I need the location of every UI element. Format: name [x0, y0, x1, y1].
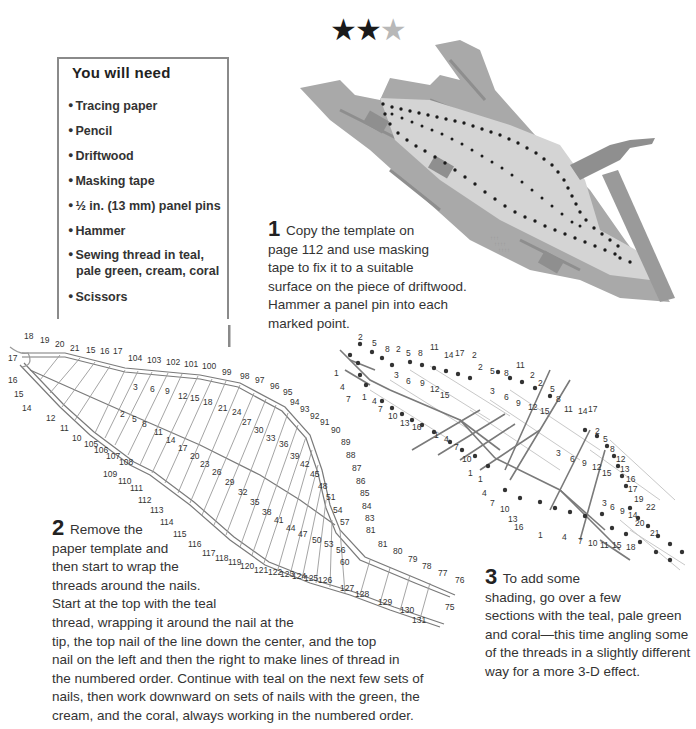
- svg-text:29: 29: [225, 477, 235, 487]
- bullet-icon: ●: [68, 291, 73, 301]
- svg-text:8: 8: [610, 444, 615, 454]
- step-1: 1 Copy the template on page 112 and use …: [268, 218, 478, 334]
- svg-text:39: 39: [290, 451, 300, 461]
- svg-text:17: 17: [178, 443, 188, 453]
- svg-text:1: 1: [478, 474, 483, 484]
- svg-text:14: 14: [22, 403, 32, 413]
- svg-text:17: 17: [455, 348, 465, 358]
- svg-text:1: 1: [334, 368, 339, 378]
- step-text-line: Copy the template on: [286, 223, 414, 238]
- svg-text:5: 5: [132, 414, 137, 424]
- svg-text:2: 2: [538, 378, 543, 388]
- svg-text:48: 48: [318, 481, 328, 491]
- svg-text:16: 16: [100, 346, 110, 356]
- material-label: Driftwood: [75, 149, 133, 163]
- svg-text:15: 15: [86, 345, 96, 355]
- svg-text:8: 8: [504, 368, 509, 378]
- step-text-line: then start to wrap the: [52, 559, 179, 574]
- bullet-icon: ●: [68, 249, 73, 259]
- svg-text:15: 15: [14, 389, 24, 399]
- bullet-icon: ●: [68, 225, 73, 235]
- svg-text:13: 13: [400, 418, 410, 428]
- bullet-icon: ●: [68, 175, 73, 185]
- svg-text:10: 10: [388, 411, 398, 421]
- materials-title: You will need: [72, 64, 171, 81]
- svg-text:35: 35: [250, 497, 260, 507]
- svg-text:7: 7: [378, 404, 383, 414]
- svg-text:14: 14: [578, 406, 588, 416]
- svg-text:2: 2: [595, 426, 600, 436]
- svg-text:111: 111: [130, 483, 143, 493]
- step-text-line: paper template and: [52, 541, 168, 556]
- svg-text:15: 15: [540, 406, 550, 416]
- svg-text:15: 15: [440, 390, 450, 400]
- svg-text:3: 3: [133, 382, 138, 392]
- svg-text:112: 112: [138, 495, 152, 505]
- svg-text:9: 9: [420, 378, 425, 388]
- svg-text:97: 97: [255, 375, 265, 385]
- material-label: Sewing thread in teal,: [75, 248, 204, 262]
- material-item: ●Sewing thread in teal,: [68, 246, 204, 263]
- material-label: Scissors: [75, 290, 127, 304]
- step-number: 1: [268, 216, 280, 241]
- material-item: ●Pencil: [68, 122, 112, 139]
- svg-text:17: 17: [588, 404, 598, 414]
- svg-text:42: 42: [300, 459, 310, 469]
- step-text-line: thread, wrapping it around the nail at t…: [52, 615, 294, 630]
- svg-text:14: 14: [166, 435, 176, 445]
- step-text-line: Remove the: [70, 522, 143, 537]
- svg-text:9: 9: [516, 398, 521, 408]
- svg-text:98: 98: [240, 371, 250, 381]
- svg-text:93: 93: [300, 404, 310, 414]
- step-text-line: surface on the piece of driftwood.: [268, 279, 467, 294]
- step-text-line: To add some: [503, 571, 580, 586]
- svg-text:1: 1: [362, 392, 367, 402]
- svg-text:21: 21: [70, 343, 80, 353]
- svg-text:4: 4: [482, 488, 487, 498]
- step-text-line: cream, and the coral, always working in …: [52, 708, 414, 723]
- material-label: Masking tape: [75, 174, 154, 188]
- svg-text:24: 24: [232, 407, 242, 417]
- svg-text:32: 32: [238, 487, 248, 497]
- svg-text:17: 17: [628, 484, 638, 494]
- svg-text:109: 109: [103, 469, 117, 479]
- svg-text:3: 3: [556, 448, 561, 458]
- svg-text:18: 18: [203, 397, 213, 407]
- svg-text:11: 11: [430, 342, 439, 352]
- svg-text:102: 102: [166, 357, 180, 367]
- svg-text:6: 6: [570, 454, 575, 464]
- svg-text:17: 17: [8, 353, 18, 363]
- svg-text:8: 8: [142, 419, 147, 429]
- svg-text:14: 14: [444, 350, 454, 360]
- svg-text:20: 20: [55, 339, 65, 349]
- svg-text:96: 96: [270, 381, 280, 391]
- svg-text:7: 7: [490, 498, 495, 508]
- step-text-line: page 112 and use masking: [268, 242, 429, 257]
- step-text-line: way for a more 3-D effect.: [485, 664, 640, 679]
- svg-text:17: 17: [113, 346, 123, 356]
- material-label: Pencil: [75, 124, 112, 138]
- svg-text:19: 19: [40, 335, 50, 345]
- svg-text:33: 33: [266, 433, 276, 443]
- bullet-icon: ●: [68, 150, 73, 160]
- step-text-line: shading, go over a few: [485, 590, 621, 605]
- svg-text:12: 12: [430, 384, 440, 394]
- svg-text:2: 2: [396, 344, 401, 354]
- svg-text:11: 11: [60, 423, 69, 433]
- svg-text:9: 9: [620, 506, 625, 516]
- svg-text:94: 94: [290, 397, 300, 407]
- material-label: pale green, cream, coral: [76, 264, 219, 278]
- material-item-continued: pale green, cream, coral: [76, 263, 219, 279]
- svg-text:1: 1: [468, 468, 473, 478]
- material-label: Hammer: [75, 224, 125, 238]
- bullet-icon: ●: [68, 100, 73, 110]
- svg-text:8: 8: [418, 348, 423, 358]
- svg-text:11: 11: [154, 427, 163, 437]
- svg-text:6: 6: [610, 502, 615, 512]
- svg-text:↑↑↑↑: ↑↑↑↑: [498, 247, 510, 253]
- svg-text:10: 10: [462, 454, 472, 464]
- svg-text:15: 15: [190, 393, 200, 403]
- svg-text:2: 2: [530, 370, 535, 380]
- svg-text:108: 108: [119, 457, 133, 467]
- step-text-line: threads around the nails.: [52, 578, 201, 593]
